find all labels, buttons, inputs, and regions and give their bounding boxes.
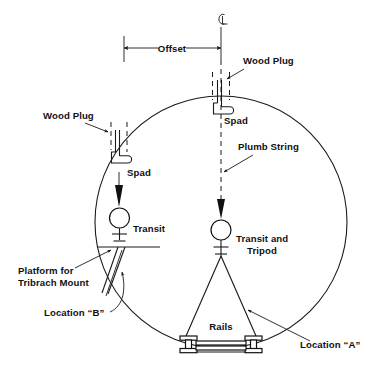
rail-right-web [251, 340, 257, 349]
transit-tripod-label-line2: Tripod [247, 245, 277, 256]
transit-label: Transit [133, 223, 166, 234]
rail-deck-plate-lower [196, 346, 246, 350]
transit-tripod-location-a-group: Transit and Tripod [186, 199, 288, 336]
centerline-l-glyph [223, 16, 228, 24]
top-wood-plug-label: Wood Plug [243, 55, 294, 66]
rail-left-bottom-flange [180, 349, 197, 353]
platform-callout: Platform for Tribrach Mount [18, 250, 111, 288]
plumb-bob-a [217, 199, 225, 219]
platform-tribrach-group [97, 247, 160, 296]
plumb-string-label: Plumb String [238, 141, 299, 152]
offset-label: Offset [158, 43, 187, 54]
left-spad-label: Spad [127, 167, 151, 178]
transit-tripod-label-line1: Transit and [236, 233, 288, 244]
left-wood-plug-callout: Wood Plug [43, 110, 108, 132]
rail-right [245, 336, 262, 353]
platform-label-line1: Platform for [18, 265, 74, 276]
platform-leader [75, 250, 111, 268]
transit-head-b [110, 208, 130, 228]
centerline-c-glyph [219, 14, 225, 24]
plumb-string-callout: Plumb String [224, 141, 299, 172]
rail-right-bottom-flange [245, 349, 262, 353]
offset-dimension-group: Offset [124, 36, 221, 62]
transit-location-b-group: Transit [110, 172, 166, 241]
rail-deck-plate-upper [196, 341, 246, 345]
transit-head-a [211, 220, 231, 240]
centerline-group [219, 14, 228, 212]
top-wood-plug-spad-group: Spad [213, 72, 248, 126]
rails-group: Rails [180, 321, 262, 353]
left-wood-plug-label: Wood Plug [43, 110, 94, 121]
left-wood-plug-leader [85, 123, 108, 132]
platform-label-line2: Tribrach Mount [18, 277, 89, 288]
plumb-bob-b [115, 185, 123, 207]
top-spad-label: Spad [224, 115, 248, 126]
diagram-root: Offset Spad Wood Plug Spad [0, 0, 384, 371]
engineering-diagram-svg: Offset Spad Wood Plug Spad [0, 0, 384, 371]
top-spad-hook [214, 103, 234, 114]
plumb-string-leader [224, 155, 253, 172]
location-b-label: Location “B” [44, 307, 104, 318]
rails-label: Rails [209, 321, 232, 332]
top-wood-plug-callout: Wood Plug [227, 55, 294, 79]
rail-left-web [186, 340, 192, 349]
rail-left [180, 336, 197, 353]
platform-bracket-edge-inner [108, 247, 125, 294]
